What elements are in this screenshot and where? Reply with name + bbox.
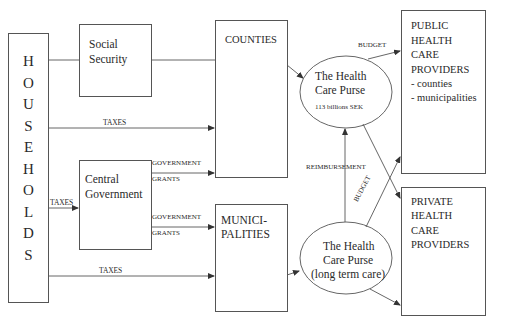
social-security-label-2: Security [89, 53, 127, 65]
counties-label: COUNTIES [225, 34, 277, 45]
reimbursement-label: REIMBURSEMENT [306, 164, 366, 171]
ltc-purse-label-2: Care Purse [323, 254, 373, 266]
public-providers-label-6: - municipalities [411, 92, 477, 103]
households-box: H O U S E H O L D S [8, 33, 49, 303]
households-letter: O [9, 73, 48, 95]
edge-counties-purse [287, 65, 303, 78]
households-letter: H [9, 159, 48, 181]
edge-ltc-public [366, 157, 400, 227]
households-letter: D [9, 223, 48, 245]
municipalities-label-2: PALITIES [221, 228, 270, 240]
municipalities-label-1: MUNICI- [221, 214, 267, 226]
edge-purse-private [363, 124, 400, 198]
public-providers-label-3: CARE [411, 49, 439, 60]
households-letter: O [9, 180, 48, 202]
social-security-label-1: Social [89, 38, 118, 50]
purse-label-1: The Health [315, 70, 366, 82]
grants-municipalities-label-1: GOVERNMENT [152, 214, 201, 221]
public-providers-label-5: - counties [411, 78, 452, 89]
private-providers-label-1: PRIVATE [411, 196, 453, 207]
households-letter: H [9, 51, 48, 73]
public-providers-label-1: PUBLIC [411, 20, 448, 31]
purse-label-2: Care Purse [315, 84, 365, 96]
ltc-purse-label-1: The Health [323, 240, 374, 252]
households-letter: S [9, 245, 48, 267]
private-providers-label-2: HEALTH [411, 210, 452, 221]
households-letter: S [9, 116, 48, 138]
public-providers-label-4: PROVIDERS [411, 64, 469, 75]
grants-municipalities-label-2: GRANTS [152, 230, 180, 237]
edge-ltc-private [370, 289, 400, 305]
taxes-counties-label: TAXES [103, 119, 126, 127]
taxes-central-label: TAXES [50, 199, 73, 207]
grants-counties-label-1: GOVERNMENT [152, 160, 201, 167]
private-providers-label-4: PROVIDERS [411, 239, 469, 250]
private-providers-label-3: CARE [411, 225, 439, 236]
public-providers-label-2: HEALTH [411, 35, 452, 46]
ltc-purse-label-3: (long term care) [311, 268, 385, 280]
households-letter: U [9, 94, 48, 116]
households-letter: E [9, 137, 48, 159]
edge-municipalities-ltc [287, 271, 299, 275]
edge-purse-public [368, 51, 400, 59]
central-government-label-2: Government [85, 188, 142, 200]
purse-amount: 113 billions SEK [315, 104, 363, 111]
households-letter: L [9, 202, 48, 224]
grants-counties-label-2: GRANTS [152, 176, 180, 183]
central-government-label-1: Central [85, 173, 119, 185]
budget-public-label: BUDGET [358, 42, 386, 49]
taxes-municipalities-label: TAXES [99, 267, 122, 275]
